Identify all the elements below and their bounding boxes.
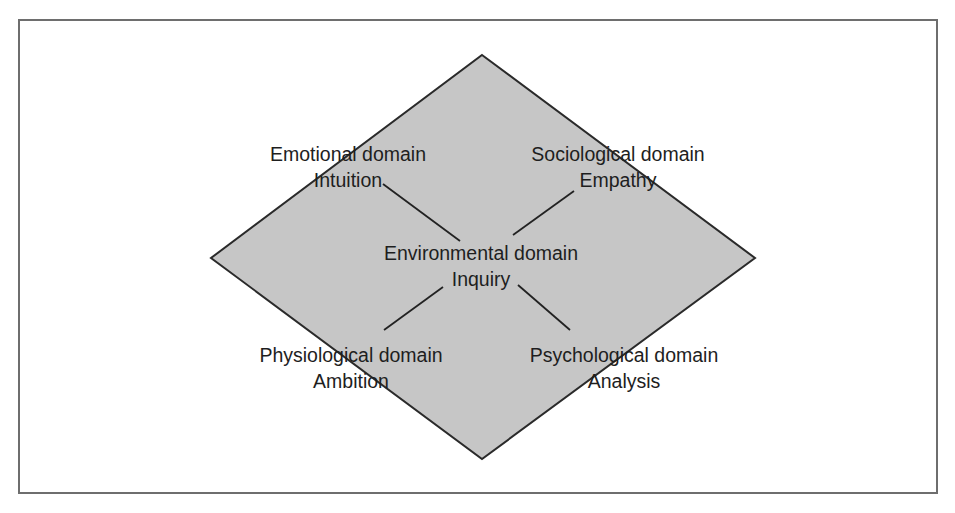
node-physiological: Physiological domain Ambition bbox=[259, 342, 442, 394]
node-psychological: Psychological domain Analysis bbox=[530, 342, 719, 394]
node-environmental: Environmental domain Inquiry bbox=[384, 240, 578, 292]
node-sociological-trait: Empathy bbox=[531, 167, 704, 193]
node-sociological-domain: Sociological domain bbox=[531, 141, 704, 167]
node-physiological-trait: Ambition bbox=[259, 368, 442, 394]
node-emotional-trait: Intuition bbox=[270, 167, 426, 193]
node-emotional: Emotional domain Intuition bbox=[270, 141, 426, 193]
node-physiological-domain: Physiological domain bbox=[259, 342, 442, 368]
node-environmental-domain: Environmental domain bbox=[384, 240, 578, 266]
node-environmental-trait: Inquiry bbox=[384, 266, 578, 292]
node-emotional-domain: Emotional domain bbox=[270, 141, 426, 167]
node-sociological: Sociological domain Empathy bbox=[531, 141, 704, 193]
node-psychological-domain: Psychological domain bbox=[530, 342, 719, 368]
node-psychological-trait: Analysis bbox=[530, 368, 719, 394]
